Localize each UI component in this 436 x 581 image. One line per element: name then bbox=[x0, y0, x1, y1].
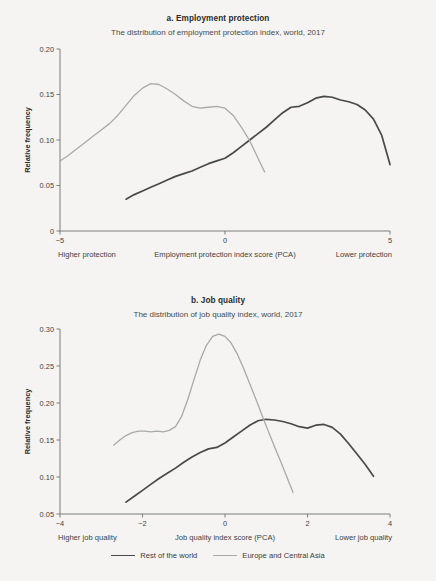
chart-panel-job-quality: b. Job quality The distribution of job q… bbox=[0, 285, 436, 581]
y-tick-label: 0.15 bbox=[40, 90, 54, 99]
x-tick-label: 0 bbox=[223, 236, 227, 245]
y-tick-label: 0.05 bbox=[40, 510, 54, 519]
x-axis-title: Job quality index score (PCA) bbox=[175, 533, 275, 542]
y-tick-label: 0 bbox=[50, 227, 54, 236]
panel-a-subtitle: The distribution of employment protectio… bbox=[0, 23, 436, 37]
x-axis-right-note: Lower protection bbox=[336, 250, 392, 259]
panel-a-svg: 00.050.100.150.20−505Relative frequencyE… bbox=[0, 37, 436, 277]
x-axis-left-note: Higher protection bbox=[58, 250, 116, 259]
legend-label-europe-and-central-asia: Europe and Central Asia bbox=[242, 551, 324, 560]
y-axis-title: Relative frequency bbox=[23, 388, 32, 455]
panel-a-plot-area: 00.050.100.150.20−505Relative frequencyE… bbox=[0, 37, 436, 277]
y-tick-label: 0.05 bbox=[40, 181, 54, 190]
legend-label-rest-of-the-world: Rest of the world bbox=[140, 551, 197, 560]
x-tick-label: 2 bbox=[305, 519, 309, 528]
y-tick-label: 0.10 bbox=[40, 136, 54, 145]
series-line-europe-and-central-asia bbox=[60, 84, 265, 172]
x-tick-label: −4 bbox=[56, 519, 64, 528]
x-axis-right-note: Lower job quality bbox=[335, 533, 392, 542]
y-tick-label: 0.20 bbox=[40, 45, 54, 54]
x-tick-label: 4 bbox=[388, 519, 392, 528]
x-tick-label: −2 bbox=[138, 519, 146, 528]
panel-b-subtitle: The distribution of job quality index, w… bbox=[0, 305, 436, 319]
y-tick-label: 0.30 bbox=[40, 325, 54, 334]
legend-item-europe-and-central-asia: Europe and Central Asia bbox=[213, 551, 324, 560]
series-line-rest-of-the-world bbox=[126, 96, 390, 199]
panel-b-plot-area: 0.050.100.150.200.250.30−4−2024Relative … bbox=[0, 319, 436, 564]
y-axis-title: Relative frequency bbox=[23, 106, 32, 173]
x-tick-label: 0 bbox=[223, 519, 227, 528]
y-tick-label: 0.15 bbox=[40, 436, 54, 445]
legend-swatch-rest-of-the-world bbox=[111, 555, 135, 556]
figure-root: a. Employment protection The distributio… bbox=[0, 0, 436, 581]
legend-item-rest-of-the-world: Rest of the world bbox=[111, 551, 197, 560]
x-axis-title: Employment protection index score (PCA) bbox=[154, 250, 296, 259]
y-tick-label: 0.20 bbox=[40, 399, 54, 408]
chart-legend: Rest of the world Europe and Central Asi… bbox=[0, 551, 436, 560]
y-tick-label: 0.25 bbox=[40, 362, 54, 371]
panel-b-svg: 0.050.100.150.200.250.30−4−2024Relative … bbox=[0, 319, 436, 564]
panel-b-title: b. Job quality bbox=[0, 285, 436, 305]
legend-swatch-europe-and-central-asia bbox=[213, 555, 237, 556]
x-axis-left-note: Higher job quality bbox=[58, 533, 117, 542]
panel-a-title: a. Employment protection bbox=[0, 0, 436, 23]
chart-panel-employment-protection: a. Employment protection The distributio… bbox=[0, 0, 436, 285]
x-tick-label: 5 bbox=[388, 236, 392, 245]
series-line-europe-and-central-asia bbox=[114, 334, 293, 492]
x-tick-label: −5 bbox=[56, 236, 64, 245]
y-tick-label: 0.10 bbox=[40, 473, 54, 482]
